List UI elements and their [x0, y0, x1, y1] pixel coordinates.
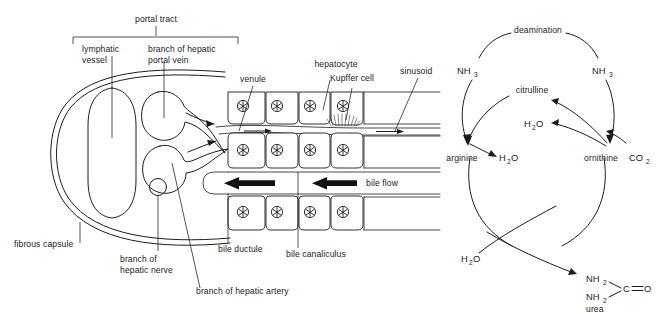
svg-text:2: 2	[646, 158, 650, 165]
label-urea-oxygen: O	[644, 283, 651, 294]
bile-ductule-channel	[203, 172, 440, 194]
label-hepatic-nerve-line2: hepatic nerve	[120, 265, 173, 275]
svg-text:H: H	[524, 118, 531, 129]
label-portal-vein-line2: portal vein	[148, 55, 189, 65]
svg-text:CO: CO	[629, 152, 643, 163]
label-venule: venule	[240, 74, 266, 84]
label-portal-vein-line1: branch of hepatic	[148, 44, 216, 54]
fibrous-capsule-outline	[51, 70, 230, 245]
middle-hepatocyte-row	[228, 133, 440, 168]
label-water-arginine: H 2 O	[499, 152, 518, 165]
svg-text:H: H	[499, 152, 506, 163]
label-lymphatic-vessel-line1: lymphatic	[82, 44, 120, 54]
label-sinusoid: sinusoid	[400, 66, 432, 76]
label-arginine: arginine	[446, 153, 477, 163]
svg-text:NH: NH	[457, 65, 471, 76]
portal-tract-bracket	[73, 26, 238, 44]
label-urea-amine-top: NH 2	[586, 273, 607, 286]
label-ornithine: ornithine	[584, 153, 618, 163]
label-bile-flow: bile flow	[366, 178, 399, 188]
label-bile-ductule: bile ductule	[218, 244, 263, 254]
bile-flow-arrow-2	[312, 177, 357, 189]
svg-text:NH: NH	[586, 291, 600, 302]
hepatic-nerve-shape	[150, 179, 167, 196]
label-bile-canaliculus: bile canaliculus	[286, 249, 346, 259]
label-deamination: deamination	[514, 25, 562, 35]
label-hepatic-artery: branch of hepatic artery	[196, 286, 289, 296]
bile-flow-arrow-1	[224, 177, 275, 189]
label-portal-tract: portal tract	[135, 14, 177, 24]
figure-root: portal tract lymphatic vessel branch of …	[0, 0, 665, 314]
label-water-mid: H 2 O	[524, 118, 543, 131]
label-hepatocyte: hepatocyte	[314, 59, 357, 69]
svg-text:H: H	[461, 253, 468, 264]
label-urea: urea	[586, 304, 604, 314]
svg-text:O: O	[536, 118, 543, 129]
label-water-bottom: H 2 O	[461, 253, 480, 266]
label-lymphatic-vessel-line2: vessel	[82, 55, 107, 65]
svg-text:O: O	[511, 152, 518, 163]
lower-hepatocyte-row	[228, 196, 440, 230]
blood-flow-arrow-2	[376, 129, 404, 134]
svg-text:2: 2	[603, 279, 607, 286]
label-citrulline: citrulline	[516, 85, 549, 95]
svg-text:2: 2	[603, 297, 607, 304]
svg-text:NH: NH	[592, 65, 606, 76]
upper-hepatocyte-row	[228, 92, 440, 125]
label-fibrous-capsule: fibrous capsule	[14, 239, 73, 249]
svg-text:3: 3	[474, 71, 478, 78]
hepatic-portal-vein-shape	[142, 91, 225, 153]
label-urea-carbon: C	[623, 283, 630, 294]
svg-text:3: 3	[609, 71, 613, 78]
hepatic-artery-lumen-shape	[143, 145, 228, 193]
label-ammonia-right: NH 3	[592, 65, 613, 78]
svg-text:NH: NH	[586, 273, 600, 284]
diagram-canvas: portal tract lymphatic vessel branch of …	[0, 0, 665, 314]
label-kupffer-cell: Kupffer cell	[330, 73, 374, 83]
label-carbon-dioxide: CO 2	[629, 152, 650, 165]
svg-text:O: O	[473, 253, 480, 264]
label-urea-amine-bottom: NH 2	[586, 291, 607, 304]
label-hepatic-nerve-line1: branch of	[120, 254, 157, 264]
label-ammonia-left: NH 3	[457, 65, 478, 78]
urea-cycle-group	[462, 33, 643, 297]
